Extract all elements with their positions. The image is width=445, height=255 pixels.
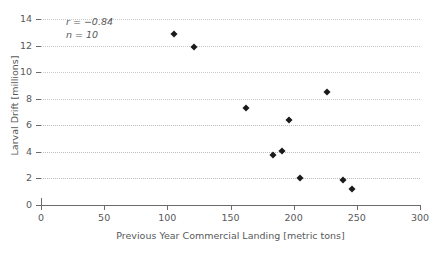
y-tick-label: 14 [0, 13, 32, 24]
correlation-value: r = −0.84 [66, 15, 113, 28]
y-tick-label: 0 [0, 199, 32, 210]
x-tick-label: 250 [337, 212, 377, 223]
plot-area [41, 19, 420, 205]
x-tick [167, 205, 168, 210]
x-tick [104, 205, 105, 210]
x-tick-label: 0 [21, 212, 61, 223]
data-point [285, 116, 292, 123]
x-tick-label: 200 [274, 212, 314, 223]
data-point [296, 175, 303, 182]
y-axis-label: Larval Drift [millions] [9, 26, 20, 186]
x-tick-label: 300 [400, 212, 440, 223]
data-point [170, 31, 177, 38]
data-point [270, 151, 277, 158]
data-point [323, 89, 330, 96]
x-tick [231, 205, 232, 210]
x-tick-label: 50 [84, 212, 124, 223]
data-point [339, 176, 346, 183]
x-tick [41, 205, 42, 210]
x-axis-label: Previous Year Commercial Landing [metric… [41, 230, 420, 241]
x-tick-label: 100 [147, 212, 187, 223]
x-tick [357, 205, 358, 210]
x-tick [420, 205, 421, 210]
data-point [190, 43, 197, 50]
data-point [242, 104, 249, 111]
stats-annotation: r = −0.84 n = 10 [66, 15, 113, 41]
data-point [279, 147, 286, 154]
x-tick-label: 150 [211, 212, 251, 223]
sample-size-value: n = 10 [66, 28, 113, 41]
scatter-chart: 02468101214 050100150200250300 Previous … [0, 0, 445, 255]
data-point [348, 186, 355, 193]
x-tick [294, 205, 295, 210]
y-axis-origin-stub [41, 198, 42, 205]
